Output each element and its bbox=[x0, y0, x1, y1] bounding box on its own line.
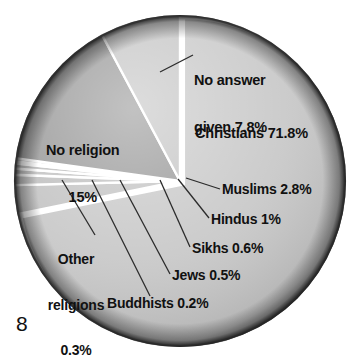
page-number: 8 bbox=[16, 312, 28, 336]
slice-label-hindus: Hindus 1% bbox=[211, 212, 281, 227]
slice-label-no-answer: No answer given 7.8% bbox=[194, 42, 267, 167]
slice-label-other-line2: religions bbox=[38, 298, 114, 313]
slice-label-muslims: Muslims 2.8% bbox=[222, 182, 311, 197]
slice-label-no-religion-line1: No religion bbox=[46, 143, 120, 159]
slice-label-christians: Christians 71.8% bbox=[195, 126, 308, 142]
slice-label-sikhs: Sikhs 0.6% bbox=[192, 241, 263, 256]
slice-label-other-line3: 0.3% bbox=[38, 343, 114, 357]
pie-chart-figure: No answer given 7.8% Christians 71.8% No… bbox=[0, 0, 354, 357]
slice-label-other-religions: Other religions 0.3% bbox=[38, 222, 114, 357]
slice-label-no-religion: No religion 15% bbox=[46, 112, 120, 237]
slice-label-other-line1: Other bbox=[38, 252, 114, 267]
slice-label-jews: Jews 0.5% bbox=[172, 268, 240, 283]
slice-label-buddhists: Buddhists 0.2% bbox=[107, 296, 208, 311]
slice-label-no-answer-line1: No answer bbox=[194, 73, 267, 89]
slice-label-no-religion-line2: 15% bbox=[46, 190, 120, 206]
